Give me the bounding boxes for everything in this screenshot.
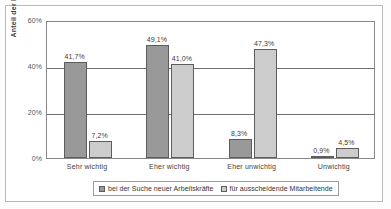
y-axis-tick-label: 40% [2,63,42,70]
legend-swatch-icon-series-1 [221,186,227,192]
y-axis-tick-label: 0% [2,155,42,162]
y-axis-tick-label: 20% [2,109,42,116]
legend: bei der Suche neuer Arbeitskräfte für au… [93,181,339,196]
bar-series-0-category-2[interactable] [229,139,252,158]
legend-label-series-0: bei der Suche neuer Arbeitskräfte [108,185,214,192]
bar-value-label: 0,9% [301,147,341,154]
bar-series-0-category-3[interactable] [311,156,334,158]
x-axis-tick-label: Unwichtig [284,163,384,170]
legend-label-series-1: für ausscheidende Mitarbeitende [230,185,333,192]
bar-value-label: 41,0% [162,55,202,62]
y-axis-tick-label: 60% [2,17,42,24]
gridline [47,68,374,69]
bar-value-label: 8,3% [219,130,259,137]
bar-series-1-category-1[interactable] [171,64,194,158]
bar-value-label: 41,7% [55,53,95,60]
bar-value-label: 4,5% [326,139,366,146]
bar-chart-figure: Anteil der Befragten 0%20%40%60% Sehr wi… [0,0,391,209]
bar-series-1-category-2[interactable] [254,49,277,158]
bar-value-label: 7,2% [80,132,120,139]
bar-value-label: 49,1% [137,36,177,43]
gridline [47,114,374,115]
legend-swatch-icon-series-0 [99,186,105,192]
bar-value-label: 47,3% [244,40,284,47]
bar-series-0-category-0[interactable] [64,62,87,158]
legend-item-series-0[interactable]: bei der Suche neuer Arbeitskräfte [99,185,214,192]
bar-series-1-category-0[interactable] [89,141,112,158]
legend-item-series-1[interactable]: für ausscheidende Mitarbeitende [221,185,333,192]
bar-series-0-category-1[interactable] [146,45,169,158]
